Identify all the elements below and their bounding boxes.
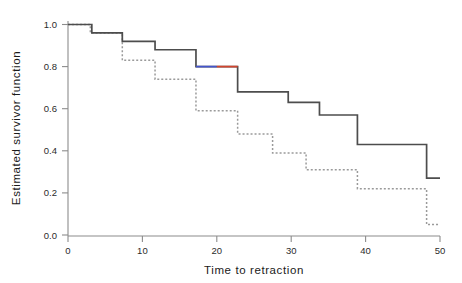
x-tick-label: 40 bbox=[360, 245, 371, 256]
y-tick-label: 0.4 bbox=[44, 145, 57, 156]
x-tick-label: 0 bbox=[65, 245, 70, 256]
x-tick-label: 20 bbox=[212, 245, 223, 256]
x-tick-label: 10 bbox=[137, 245, 148, 256]
x-tick-label: 30 bbox=[286, 245, 297, 256]
x-axis-title: Time to retraction bbox=[204, 264, 304, 276]
y-tick-label: 0.6 bbox=[44, 103, 57, 114]
x-tick-label: 50 bbox=[435, 245, 446, 256]
survival-chart: 1.0 0.8 0.6 0.4 0.2 0.0 0 10 20 30 40 50… bbox=[0, 0, 462, 283]
y-tick-label: 0.0 bbox=[44, 230, 57, 241]
y-tick-label: 0.8 bbox=[44, 61, 57, 72]
y-tick-label: 0.2 bbox=[44, 187, 57, 198]
y-tick-label: 1.0 bbox=[44, 19, 57, 30]
plot-background bbox=[0, 0, 462, 283]
y-axis-title: Estimated survivor function bbox=[10, 51, 22, 205]
